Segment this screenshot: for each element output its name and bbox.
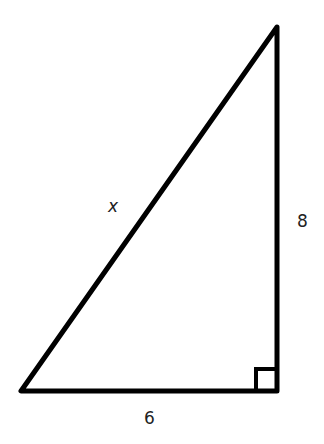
hypotenuse-label: x — [108, 198, 118, 215]
triangle-diagram — [0, 0, 324, 444]
right-angle-marker — [256, 369, 277, 391]
horizontal-leg-label: 6 — [144, 410, 155, 427]
vertical-leg-label: 8 — [297, 213, 308, 230]
triangle — [21, 27, 277, 391]
